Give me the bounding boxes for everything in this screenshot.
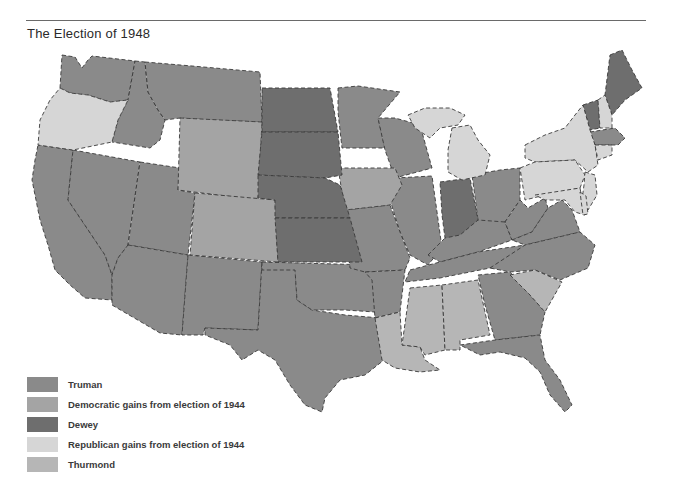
legend-swatch-democratic-gains	[27, 397, 58, 412]
legend-label: Truman	[68, 379, 102, 390]
legend-item-truman: Truman	[27, 376, 245, 392]
legend-item-dewey: Dewey	[27, 416, 245, 432]
state-north-dakota[interactable]	[262, 88, 338, 132]
state-connecticut[interactable]	[595, 145, 612, 160]
legend-item-republican-gains: Republican gains from election of 1944	[27, 436, 245, 452]
state-new-mexico[interactable]	[182, 255, 262, 335]
legend-swatch-dewey	[27, 417, 58, 432]
state-maine[interactable]	[605, 50, 642, 115]
state-kansas[interactable]	[275, 218, 362, 262]
legend-label: Thurmond	[68, 459, 115, 470]
state-wyoming[interactable]	[178, 118, 262, 200]
state-florida[interactable]	[460, 335, 572, 412]
map-legend: Truman Democratic gains from election of…	[27, 376, 245, 476]
state-montana[interactable]	[145, 62, 262, 122]
legend-swatch-republican-gains	[27, 437, 58, 452]
state-mississippi[interactable]	[402, 285, 445, 355]
legend-item-thurmond: Thurmond	[27, 456, 245, 472]
legend-label: Democratic gains from election of 1944	[68, 399, 245, 410]
legend-item-democratic-gains: Democratic gains from election of 1944	[27, 396, 245, 412]
legend-swatch-truman	[27, 377, 58, 392]
legend-swatch-thurmond	[27, 457, 58, 472]
state-massachusetts[interactable]	[590, 128, 625, 145]
legend-label: Republican gains from election of 1944	[68, 439, 244, 450]
legend-label: Dewey	[68, 419, 98, 430]
state-south-dakota[interactable]	[258, 132, 342, 178]
state-arizona[interactable]	[112, 245, 188, 335]
state-colorado[interactable]	[190, 193, 278, 262]
